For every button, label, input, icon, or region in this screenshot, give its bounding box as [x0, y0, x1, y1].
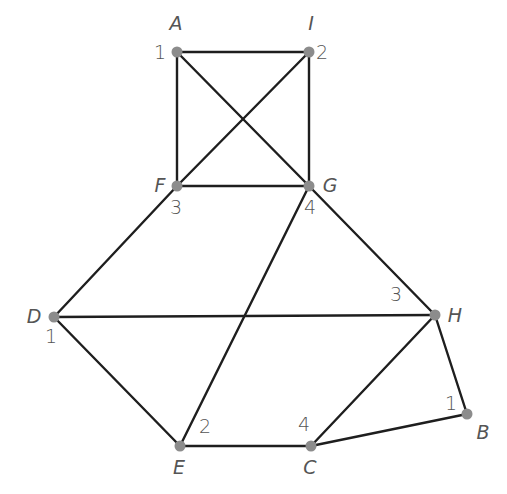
node-number-e: 2 [199, 415, 211, 437]
node-e [175, 441, 186, 452]
node-b [462, 409, 473, 420]
node-d [49, 312, 60, 323]
node-number-i: 2 [316, 41, 328, 63]
node-number-a: 1 [154, 41, 166, 63]
node-number-c: 4 [298, 413, 310, 435]
node-label-b: B [476, 421, 489, 443]
node-label-i: I [308, 12, 314, 34]
graph-diagram: A1I2F3G4D1H3B1E2C4 [0, 0, 507, 494]
node-label-f: F [155, 174, 167, 196]
edge-c-b [311, 414, 467, 446]
node-label-c: C [303, 456, 317, 478]
node-number-d: 1 [45, 325, 57, 347]
node-i [304, 47, 315, 58]
node-f [172, 181, 183, 192]
node-h [430, 310, 441, 321]
labels-group: A1I2F3G4D1H3B1E2C4 [27, 12, 490, 478]
node-label-g: G [323, 174, 338, 196]
node-number-g: 4 [304, 196, 316, 218]
edges-group [54, 52, 467, 446]
node-label-e: E [173, 456, 185, 478]
edge-g-h [309, 186, 435, 315]
node-label-a: A [168, 12, 183, 34]
node-g [304, 181, 315, 192]
edge-d-h [54, 315, 435, 317]
edge-f-d [54, 186, 177, 317]
node-a [172, 47, 183, 58]
node-number-f: 3 [170, 196, 182, 218]
node-label-h: H [448, 304, 462, 326]
node-c [306, 441, 317, 452]
node-label-d: D [27, 305, 42, 327]
node-number-h: 3 [390, 283, 402, 305]
edge-d-e [54, 317, 180, 446]
edge-c-h [311, 315, 435, 446]
node-number-b: 1 [445, 392, 457, 414]
nodes-group [49, 47, 473, 452]
